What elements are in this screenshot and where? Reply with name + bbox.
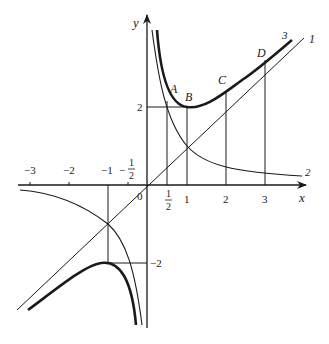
x-tick-2: 2 (223, 193, 229, 205)
svg-text:2: 2 (129, 170, 134, 181)
x-tick-1: 1 (184, 193, 190, 205)
point-d-label: D (256, 46, 266, 60)
curve-3-label: 3 (281, 29, 288, 41)
x-tick-neg2: −2 (63, 164, 75, 176)
y-tick-2: 2 (137, 101, 143, 113)
function-graph: y x 0 −3 −2 −1 − 1 2 1 2 1 2 3 2 −2 A B … (0, 0, 329, 344)
svg-text:−: − (119, 164, 125, 176)
svg-text:1: 1 (129, 157, 134, 168)
curve-2-label: 2 (305, 166, 311, 178)
x-axis-label: x (298, 190, 305, 205)
curve-3-negative (28, 263, 136, 325)
curve-2-reciprocal-negative (20, 190, 142, 325)
y-tick-neg2: −2 (150, 257, 162, 269)
x-tick-neg3: −3 (24, 164, 36, 176)
x-tick-half: 1 2 (165, 188, 172, 212)
point-b-label: B (185, 90, 193, 104)
x-tick-3: 3 (262, 193, 268, 205)
svg-text:1: 1 (166, 188, 171, 199)
line-1-y-equals-x (17, 38, 304, 310)
origin-label: 0 (137, 190, 143, 202)
x-tick-neg-half: − 1 2 (119, 157, 135, 181)
line-1-label: 1 (309, 32, 315, 46)
point-a-label: A (169, 82, 178, 96)
point-c-label: C (218, 73, 227, 87)
y-axis-label: y (131, 15, 139, 30)
x-tick-neg1: −1 (101, 164, 113, 176)
svg-text:2: 2 (166, 201, 171, 212)
